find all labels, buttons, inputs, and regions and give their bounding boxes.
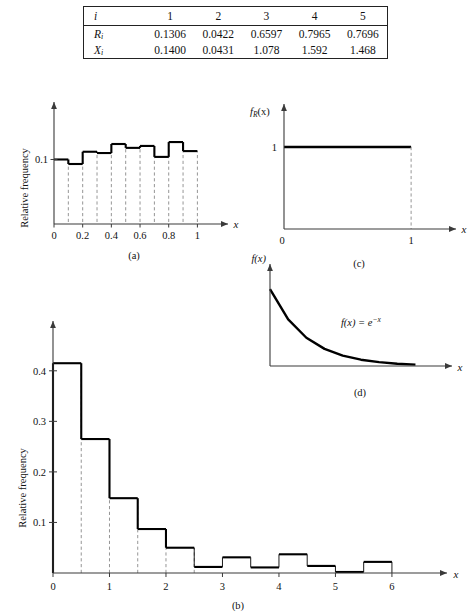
y-tick-label: 0.1 bbox=[33, 517, 46, 528]
axis-tick-label: 0.4 bbox=[105, 230, 119, 241]
x-tick-label: 3 bbox=[220, 581, 225, 592]
chart-d-canvas: f(x)f(x) = e−xx(d) bbox=[250, 266, 465, 401]
y-axis-title: Relative frequency bbox=[19, 147, 30, 227]
table-cell: 0.0431 bbox=[194, 42, 242, 58]
table-row: Ri 0.1306 0.0422 0.6597 0.7965 0.7696 bbox=[84, 26, 387, 43]
chart-c-axes bbox=[281, 104, 456, 232]
axis-tick-label: 0.8 bbox=[162, 230, 175, 241]
chart-c-density bbox=[284, 147, 411, 229]
x-tick-label: 4 bbox=[276, 581, 282, 592]
x-tick-label: 0 bbox=[50, 581, 55, 592]
svg-text:fR(x): fR(x) bbox=[250, 106, 270, 119]
x-tick-label: 2 bbox=[163, 581, 168, 592]
x-axis-title: x bbox=[457, 361, 463, 373]
x-tick-label: 0 bbox=[279, 235, 284, 246]
table-cell: 1.468 bbox=[339, 42, 387, 58]
chart-a-labels: 0.100.20.40.60.81Relative frequencyx(a) bbox=[19, 147, 239, 262]
x-tick-label: 1 bbox=[107, 581, 112, 592]
data-table-wrapper: i 1 2 3 4 5 Ri 0.1306 0.0422 0.6597 0.79 bbox=[83, 6, 388, 59]
table-cell: 1.592 bbox=[291, 42, 339, 58]
y-axis-arrowhead bbox=[267, 264, 273, 271]
row-label-base: R bbox=[94, 28, 101, 40]
table-header-col-3: 3 bbox=[242, 7, 290, 26]
x-axis-arrowhead bbox=[445, 363, 452, 369]
axis-tick-label: 0 bbox=[51, 230, 56, 241]
table-header-row: i 1 2 3 4 5 bbox=[84, 7, 387, 26]
table-header-col-4: 4 bbox=[291, 7, 339, 26]
row-label-sub: i bbox=[101, 32, 103, 41]
row-label-sub: i bbox=[101, 48, 103, 57]
subplot-caption: (d) bbox=[354, 387, 367, 399]
curve-annotation: f(x) = e−x bbox=[341, 315, 382, 329]
table-cell: 0.6597 bbox=[242, 26, 290, 43]
table-header-index: i bbox=[84, 7, 146, 26]
subplot-caption: (a) bbox=[128, 250, 140, 262]
y-tick-label: 0.3 bbox=[33, 416, 46, 427]
row-label-base: X bbox=[94, 44, 101, 56]
y-axis-title: fR(x) bbox=[250, 106, 270, 119]
chart-c-canvas: 101fR(x)x(c) bbox=[236, 96, 468, 268]
table-cell: 0.7965 bbox=[291, 26, 339, 43]
table-header-col-2: 2 bbox=[194, 7, 242, 26]
chart-a-bars bbox=[54, 142, 197, 164]
axis-tick-label: 1 bbox=[195, 230, 200, 241]
x-axis-arrowhead bbox=[221, 221, 228, 227]
table-row-label-X: Xi bbox=[84, 42, 146, 58]
y-axis-arrowhead bbox=[281, 104, 287, 111]
table-row: Xi 0.1400 0.0431 1.078 1.592 1.468 bbox=[84, 42, 387, 58]
chart-c-labels: 101fR(x)x(c) bbox=[250, 106, 467, 270]
x-axis-title: x bbox=[453, 568, 459, 580]
table-cell: 0.1306 bbox=[146, 26, 194, 43]
x-axis-title: x bbox=[461, 223, 467, 235]
y-tick-label: 0.2 bbox=[33, 467, 46, 478]
y-axis-arrowhead bbox=[51, 102, 57, 109]
table-cell: 0.7696 bbox=[339, 26, 387, 43]
table-header-col-5: 5 bbox=[339, 7, 387, 26]
x-axis-arrowhead bbox=[440, 570, 447, 576]
chart-d: f(x)f(x) = e−xx(d) bbox=[250, 266, 465, 401]
y-axis-title: f(x) bbox=[251, 253, 266, 265]
chart-a-canvas: 0.100.20.40.60.81Relative frequencyx(a) bbox=[8, 96, 243, 266]
table-header-col-1: 1 bbox=[146, 7, 194, 26]
table-cell: 1.078 bbox=[242, 42, 290, 58]
y-tick-label: 0.4 bbox=[33, 366, 47, 377]
x-axis-arrowhead bbox=[449, 226, 456, 232]
x-tick-label: 5 bbox=[333, 581, 338, 592]
table-row-label-R: Ri bbox=[84, 26, 146, 43]
chart-c: 101fR(x)x(c) bbox=[236, 96, 468, 268]
x-tick-label: 1 bbox=[408, 235, 413, 246]
axis-tick-label: 0.2 bbox=[76, 230, 89, 241]
y-axis-arrowhead bbox=[50, 321, 56, 328]
chart-a: 0.100.20.40.60.81Relative frequencyx(a) bbox=[8, 96, 243, 266]
table-cell: 0.0422 bbox=[194, 26, 242, 43]
table-cell: 0.1400 bbox=[146, 42, 194, 58]
axis-tick-label: 0.1 bbox=[35, 154, 48, 165]
subplot-caption: (b) bbox=[232, 600, 245, 612]
y-axis-title: Relative frequency bbox=[17, 447, 28, 527]
y-tick-label: 1 bbox=[272, 142, 277, 153]
chart-d-labels: f(x)f(x) = e−xx(d) bbox=[251, 253, 462, 399]
axis-tick-label: 0.6 bbox=[133, 230, 146, 241]
data-table: i 1 2 3 4 5 Ri 0.1306 0.0422 0.6597 0.79 bbox=[84, 7, 387, 58]
figure-root: i 1 2 3 4 5 Ri 0.1306 0.0422 0.6597 0.79 bbox=[0, 0, 471, 613]
x-tick-label: 6 bbox=[389, 581, 394, 592]
